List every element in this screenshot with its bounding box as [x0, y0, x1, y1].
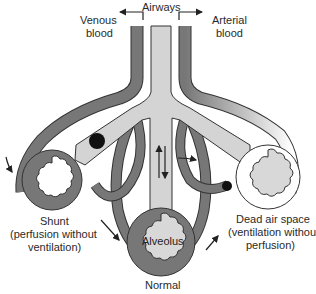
- shunt-airway-blockage: [89, 133, 105, 149]
- shunt-label-3: ventilation): [28, 241, 81, 254]
- alveolus-label: Alveolus: [142, 235, 184, 248]
- airways-label: Airways: [142, 1, 181, 14]
- dead-space-vessel-blockage: [222, 181, 232, 191]
- shunt-alveolus: [22, 150, 82, 210]
- venous-blood-label-2: blood: [86, 27, 113, 40]
- arterial-blood-label-1: Arterial: [212, 14, 247, 27]
- dead-space-label-1: Dead air space: [236, 213, 310, 226]
- dead-space-label-2: (ventilation without: [228, 226, 316, 239]
- shunt-label-2: (perfusion without: [10, 228, 97, 241]
- dead-space-label-3: perfusion): [246, 239, 295, 252]
- venous-blood-label-1: Venous: [80, 14, 117, 27]
- shunt-label-1: Shunt: [40, 215, 69, 228]
- dead-space-alveolus: [236, 145, 300, 209]
- normal-label: Normal: [145, 279, 180, 292]
- arterial-blood-label-2: blood: [216, 27, 243, 40]
